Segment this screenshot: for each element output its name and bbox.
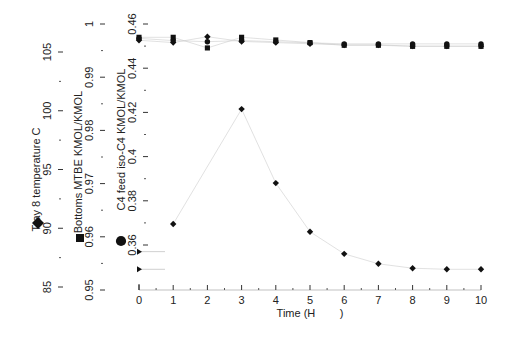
square-marker [205,45,210,50]
x-tick-label: 6 [341,294,347,306]
y-axis-bottoms-mtbe: 0.950.960.970.980.991Bottoms MTBE KMOL/K… [72,21,105,301]
x-tick-label: 3 [239,294,245,306]
diamond-marker [375,261,381,267]
diamond-marker [273,180,279,186]
y-tick-label: 100 [41,102,53,120]
diamond-marker [341,251,347,257]
x-tick-label: 8 [410,294,416,306]
x-tick-label: 0 [136,294,142,306]
diamond-marker [170,221,176,227]
x-axis-title: Time (H ) [277,307,344,319]
circle-marker [170,38,175,43]
circle-marker [273,39,278,44]
circle-marker [478,41,483,46]
diamond-marker [238,106,244,112]
y-axis-title: Bottoms MTBE KMOL/KMOL [72,91,84,233]
x-tick-label: 4 [273,294,279,306]
y-tick-label: 0.36 [126,234,138,255]
circle-marker [341,41,346,46]
diamond-marker [478,266,484,272]
circle-marker [307,40,312,45]
triangle-marker [137,266,142,272]
diamond-marker [307,229,313,235]
circle-marker [239,38,244,43]
circle-marker [205,39,210,44]
y-axis-title: Tray 8 temperature C [30,127,42,231]
y-axis-tray-temperature: 859095100105Tray 8 temperature C [30,43,63,293]
y-tick-label: 0.46 [126,13,138,34]
legend-square-icon [76,234,84,242]
x-tick-label: 2 [204,294,210,306]
x-axis-time: 012345678910Time (H ) [136,284,487,319]
series-line [173,109,481,269]
circle-marker [444,41,449,46]
multi-axis-scatter-chart: 859095100105Tray 8 temperature C 0.950.9… [0,0,512,342]
y-axis-title: C4 feed iso-C4 KMOL/KMOL [115,69,127,211]
y-tick-label: 85 [41,281,53,293]
y-tick-label: 0.99 [83,66,95,87]
y-tick-label: 105 [41,43,53,61]
x-tick-label: 1 [170,294,176,306]
y-tick-label: 1 [83,21,95,27]
legend-circle-icon [116,236,126,246]
y-tick-label: 0.98 [83,120,95,141]
diamond-marker [444,266,450,272]
circle-marker [410,41,415,46]
y-tick-label: 0.4 [126,149,138,164]
y-tick-label: 0.96 [83,226,95,247]
y-tick-label: 0.42 [126,102,138,123]
y-axis-c4-feed-iso-c4: 0.360.380.40.420.440.46C4 feed iso-C4 KM… [115,13,148,255]
x-tick-label: 7 [375,294,381,306]
x-tick-label: 9 [444,294,450,306]
x-tick-label: 5 [307,294,313,306]
circle-marker [136,36,141,41]
diamond-marker [409,265,415,271]
y-tick-label: 0.95 [83,279,95,300]
y-tick-label: 0.97 [83,173,95,194]
triangle-marker [137,249,142,255]
x-tick-label: 10 [475,294,487,306]
y-tick-label: 0.44 [126,57,138,78]
y-tick-label: 0.38 [126,190,138,211]
data-series [136,34,484,273]
y-tick-label: 95 [41,163,53,175]
circle-marker [376,41,381,46]
